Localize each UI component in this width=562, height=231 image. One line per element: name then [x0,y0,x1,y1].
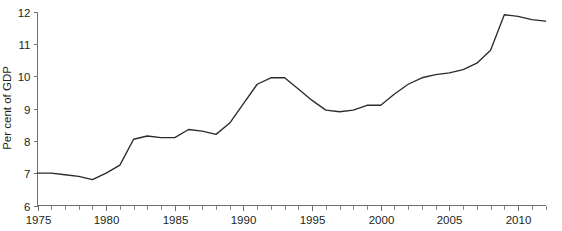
y-tick-group [34,13,38,207]
x-tick-label: 1990 [231,214,257,226]
y-axis-title-group: Per cent of GDP [1,66,13,150]
x-tick-label-group: 19751980198519901995200020052010 [26,214,532,226]
y-axis-title: Per cent of GDP [1,66,13,150]
chart-figure: 6789101112 19751980198519901995200020052… [0,0,562,231]
y-tick-label: 9 [24,104,30,116]
y-tick-label: 12 [18,7,31,19]
x-tick-label: 1975 [26,214,52,226]
x-tick-label: 2000 [369,214,395,226]
data-series-group [38,15,546,180]
x-tick-label: 1995 [300,214,326,226]
y-axis: 6789101112 [18,7,38,213]
x-tick-label: 2010 [506,214,532,226]
x-tick-label: 2005 [437,214,463,226]
x-tick-label: 1980 [94,214,120,226]
y-tick-label: 8 [24,136,30,148]
y-tick-label: 7 [24,168,30,180]
x-minor-tick-group [52,206,547,210]
x-axis: 19751980198519901995200020052010 [26,206,547,226]
x-tick-label: 1985 [163,214,189,226]
line-chart: 6789101112 19751980198519901995200020052… [0,0,562,231]
y-tick-label-group: 6789101112 [18,7,31,213]
y-tick-label: 6 [24,201,30,213]
data-line-per-cent-of-gdp [38,15,546,180]
y-tick-label: 11 [19,39,31,51]
x-tick-group [39,206,519,211]
y-tick-label: 10 [18,71,31,83]
